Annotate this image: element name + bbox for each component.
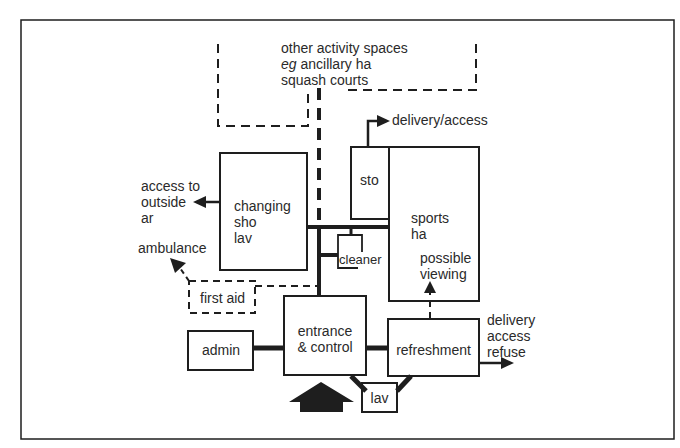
refreshment-label: refreshment: [388, 342, 479, 358]
changing-label: changing sho lav: [234, 198, 291, 246]
service-label: delivery access refuse: [487, 312, 535, 360]
sports-centre-relationship-diagram: other activity spaces eg ancillary ha sq…: [0, 0, 680, 448]
viewing-label: possible viewing: [420, 250, 471, 282]
outside-area-label: access to outside ar: [141, 178, 200, 226]
other-activity-label: other activity spaces eg ancillary ha sq…: [281, 40, 408, 88]
cleaner-label: cleaner: [339, 252, 382, 268]
main-entrance-arrow-icon: [289, 382, 354, 412]
viewing-arrow-icon: [424, 281, 436, 293]
entrance-label: entrance & control: [284, 323, 366, 355]
admin-label: admin: [202, 342, 240, 358]
sports-hall-label: sports ha: [411, 210, 449, 242]
lav-label: lav: [362, 390, 397, 406]
delivery-arrow-icon: [377, 115, 390, 127]
ambulance-arrow-icon: [170, 258, 186, 273]
store-label: sto: [360, 172, 379, 188]
first-aid-label: first aid: [200, 290, 245, 306]
delivery-access-label: delivery/access: [392, 112, 488, 128]
ambulance-label: ambulance: [138, 240, 207, 256]
